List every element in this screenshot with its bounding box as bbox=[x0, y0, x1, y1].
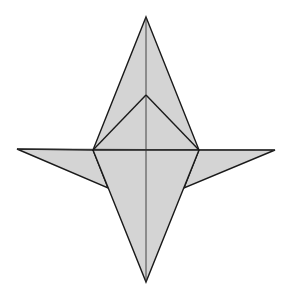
diagram-canvas bbox=[0, 0, 293, 290]
crease-lines bbox=[17, 17, 275, 282]
right-wing bbox=[184, 150, 275, 188]
origami-diagram bbox=[0, 0, 293, 290]
